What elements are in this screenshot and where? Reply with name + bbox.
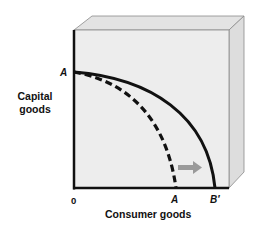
y-intercept-label: A — [60, 68, 67, 78]
x-intercept-b-prime-label: B′ — [210, 195, 220, 205]
y-axis-label: Capital goods — [10, 90, 60, 116]
box-front-face — [74, 30, 229, 188]
box-top-face — [74, 16, 244, 30]
x-intercept-a-label: A — [171, 195, 178, 205]
box-side-face — [229, 16, 244, 188]
origin-label: 0 — [71, 196, 76, 206]
x-axis-label: Consumer goods — [105, 209, 191, 220]
y-axis-label-line2: goods — [10, 103, 60, 116]
y-axis-label-line1: Capital — [10, 90, 60, 103]
